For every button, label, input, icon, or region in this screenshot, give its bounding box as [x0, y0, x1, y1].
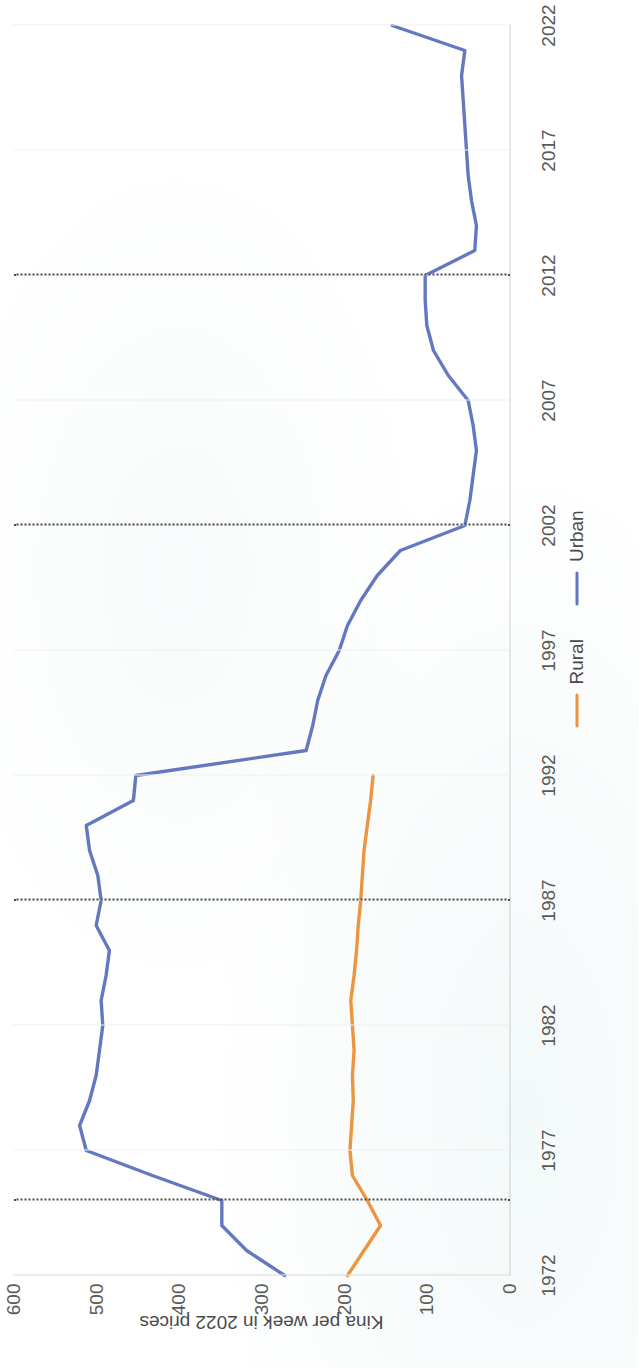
x-axis-line	[510, 25, 511, 1276]
y-axis-tick-label: 600	[3, 1284, 25, 1316]
y-axis-tick-label: 0	[499, 1284, 521, 1295]
x-axis-tick-label: 2002	[538, 505, 560, 547]
legend-label: Rural	[566, 640, 588, 685]
chart-canvas: Kina per week in 2022 prices 01002003004…	[0, 0, 639, 1368]
x-axis-tick-label: 2017	[538, 130, 560, 172]
y-axis-tick-label: 200	[334, 1284, 356, 1316]
gridline-vertical	[14, 1275, 510, 1276]
x-axis-tick-label: 2012	[538, 255, 560, 297]
x-axis-tick-label: 1982	[538, 1005, 560, 1047]
chart-legend: RuralUrban	[566, 511, 588, 728]
y-axis-tick-label: 500	[86, 1284, 108, 1316]
series-line-rural	[348, 776, 381, 1276]
x-axis-tick-label: 1997	[538, 630, 560, 672]
x-axis-tick-label: 1992	[538, 755, 560, 797]
y-axis-tick-label: 100	[416, 1284, 438, 1316]
x-axis-tick-label: 1977	[538, 1130, 560, 1172]
legend-swatch-icon	[576, 572, 579, 606]
legend-item-rural[interactable]: Rural	[566, 640, 588, 728]
series-lines	[14, 26, 510, 1276]
legend-item-urban[interactable]: Urban	[566, 511, 588, 606]
x-axis-tick-label: 2007	[538, 380, 560, 422]
x-axis-tick-label: 1972	[538, 1255, 560, 1297]
plot-area: 0100200300400500600197219771982198719921…	[14, 26, 510, 1276]
x-axis-tick-label: 2022	[538, 5, 560, 47]
y-axis-tick-label: 400	[168, 1284, 190, 1316]
y-axis-tick-label: 300	[251, 1284, 273, 1316]
rotated-chart-container: Kina per week in 2022 prices 01002003004…	[0, 0, 639, 1368]
legend-label: Urban	[566, 511, 588, 563]
x-axis-tick-label: 1987	[538, 880, 560, 922]
legend-swatch-icon	[576, 694, 579, 728]
series-line-urban	[80, 26, 477, 1276]
